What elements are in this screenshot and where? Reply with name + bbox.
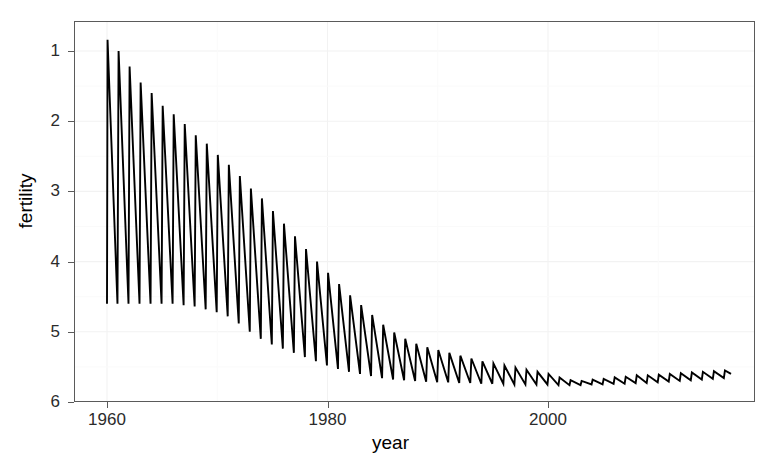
y-tick-label-1: 6 (38, 393, 60, 410)
x-axis-title: year (0, 432, 781, 454)
x-tick-mark-1980 (328, 402, 329, 408)
x-tick-label-1980: 1980 (298, 411, 358, 428)
fertility-line-series (75, 22, 754, 401)
fertility-line-path (107, 40, 731, 385)
x-tick-mark-2000 (548, 402, 549, 408)
x-tick-mark-1960 (107, 402, 108, 408)
x-tick-label-2000: 2000 (518, 411, 578, 428)
y-tick-label-6: 1 (38, 42, 60, 59)
y-tick-label-2: 5 (38, 323, 60, 340)
gridlines-major (75, 22, 754, 401)
fertility-year-chart: 654321 196019802000 year fertility (0, 0, 781, 465)
gridlines-minor (75, 22, 754, 401)
y-tick-mark-1 (68, 402, 74, 403)
y-tick-label-5: 2 (38, 112, 60, 129)
y-tick-label-4: 3 (38, 182, 60, 199)
x-tick-label-1960: 1960 (77, 411, 137, 428)
y-axis-title: fertility (15, 101, 37, 301)
plot-panel (74, 21, 755, 402)
y-tick-label-3: 4 (38, 253, 60, 270)
